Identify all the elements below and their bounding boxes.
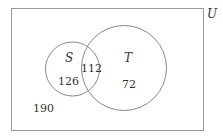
intersection-count: 112 — [81, 62, 102, 75]
set-s-label: S — [65, 51, 73, 65]
universe-label: U — [207, 7, 218, 21]
set-t-label: T — [124, 51, 133, 65]
t-only-count: 72 — [122, 78, 136, 91]
venn-diagram: U S 126 112 T 72 190 — [0, 0, 223, 136]
s-only-count: 126 — [58, 75, 79, 88]
outside-count: 190 — [33, 102, 54, 115]
